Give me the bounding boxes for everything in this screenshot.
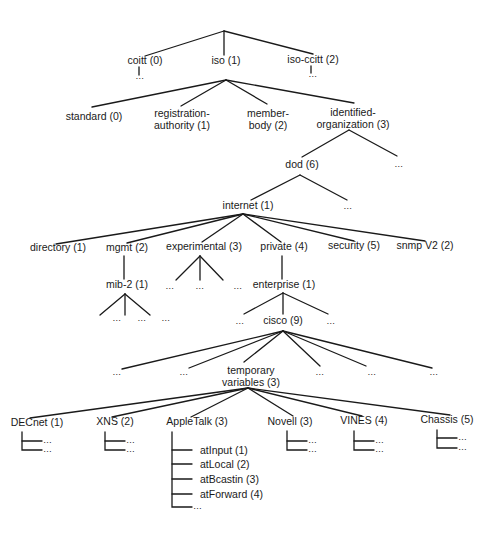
oid-tree-diagram: coitt (0)iso (1)iso-ccitt (2)standard (0…	[0, 0, 493, 536]
ellipsis-0: …	[135, 71, 145, 81]
node-mib-2: mib-2 (1)	[106, 278, 148, 290]
ellipsis-4: …	[112, 313, 122, 323]
ellipsis-1: …	[308, 69, 318, 79]
ellipsis-chassis-2: …	[458, 442, 468, 452]
ellipsis-16: …	[429, 367, 439, 377]
edge-iso-standard	[92, 80, 226, 107]
edge-dod-dots	[300, 175, 347, 200]
edge-temp-vines	[248, 388, 362, 416]
edge-temp-chassis	[248, 388, 450, 415]
node-security: security (5)	[328, 239, 380, 251]
ellipsis-10: …	[235, 316, 245, 326]
node-atlocal: atLocal (2)	[200, 458, 250, 470]
edge-enterprise-dots1	[244, 293, 283, 314]
node-appletalk: AppleTalk (3)	[166, 415, 227, 427]
node-snmpv2: snmp V2 (2)	[396, 239, 453, 251]
edge-mib2-dots1	[100, 294, 125, 315]
ellipsis-6: …	[161, 313, 171, 323]
ellipsis-decnet-2: …	[43, 444, 53, 454]
ellipsis-appletalk: …	[193, 501, 203, 511]
node-novell: Novell (3)	[268, 415, 313, 427]
edge-internet-snmpv2	[243, 214, 425, 241]
edge-mib2-dots3	[125, 294, 150, 315]
node-standard: standard (0)	[66, 110, 123, 122]
node-coitt: coitt (0)	[127, 54, 162, 66]
node-private: private (4)	[260, 240, 307, 252]
ellipsis-11: …	[326, 316, 336, 326]
node-dod: dod (6)	[285, 158, 318, 170]
node-iso: iso (1)	[211, 54, 240, 66]
ellipsis-2: …	[394, 159, 404, 169]
ellipsis-xns-2: …	[126, 444, 136, 454]
node-enterprise: enterprise (1)	[253, 278, 315, 290]
node-registration-authority: registration-authority (1)	[154, 107, 210, 131]
ellipsis-8: …	[195, 281, 205, 291]
ellipsis-3: …	[343, 201, 353, 211]
edge-root-iso-ccitt	[224, 31, 313, 54]
node-internet: internet (1)	[223, 199, 274, 211]
node-atbcastin: atBcastin (3)	[200, 473, 259, 485]
node-iso-ccitt: iso-ccitt (2)	[287, 53, 338, 65]
edge-internet-experimental	[202, 214, 243, 242]
bracket-appletalk	[172, 432, 192, 507]
node-chassis: Chassis (5)	[420, 413, 473, 425]
edge-idorg-dod	[302, 130, 349, 157]
edge-temp-xns	[112, 388, 248, 417]
edge-internet-mgmt	[127, 214, 243, 243]
node-experimental: experimental (3)	[166, 240, 242, 252]
edge-dod-internet	[251, 175, 300, 200]
tree-canvas: coitt (0)iso (1)iso-ccitt (2)standard (0…	[0, 0, 493, 536]
ellipsis-15: …	[367, 367, 377, 377]
node-cisco: cisco (9)	[263, 314, 303, 326]
ellipsis-vines-2: …	[375, 444, 385, 454]
edge-root-coitt	[145, 31, 224, 56]
bracket-chassis	[437, 430, 457, 448]
edge-enterprise-dots2	[283, 293, 328, 314]
node-identified-organization: identified-organization (3)	[317, 106, 390, 130]
ellipsis-13: …	[179, 367, 189, 377]
ellipsis-novell-2: …	[308, 444, 318, 454]
node-mgmt: mgmt (2)	[106, 241, 148, 253]
ellipsis-chassis-1: …	[458, 432, 468, 442]
tree-edges	[22, 31, 457, 507]
ellipsis-12: …	[112, 367, 122, 377]
tree-labels: coitt (0)iso (1)iso-ccitt (2)standard (0…	[11, 53, 474, 428]
edge-temp-novell	[248, 388, 293, 416]
edge-exp-dots3	[200, 256, 223, 280]
ellipsis-5: …	[137, 313, 147, 323]
node-atinput: atInput (1)	[200, 444, 248, 456]
node-vines: VINES (4)	[340, 414, 387, 426]
node-directory: directory (1)	[30, 241, 86, 253]
edge-idorg-dots	[349, 130, 397, 156]
node-atforward: atForward (4)	[200, 488, 263, 500]
ellipsis-7: …	[165, 281, 175, 291]
ellipsis-9: …	[233, 281, 243, 291]
edge-exp-dots1	[176, 256, 200, 280]
node-member-body: member-body (2)	[247, 107, 290, 131]
node-temporary-variables: temporaryvariables (3)	[222, 364, 280, 388]
node-decnet: DECnet (1)	[11, 416, 64, 428]
ellipsis-14: …	[315, 367, 325, 377]
node-xns: XNS (2)	[96, 415, 133, 427]
edge-temp-decnet	[30, 388, 248, 418]
appletalk-children: atInput (1) atLocal (2) atBcastin (3) at…	[200, 444, 263, 500]
